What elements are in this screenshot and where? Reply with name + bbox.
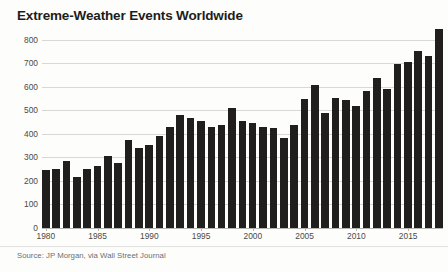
bar-1990 — [145, 145, 153, 228]
x-axis-label-2005: 2005 — [295, 231, 314, 241]
bar-1981 — [52, 169, 60, 228]
bar-series — [42, 28, 443, 228]
source-note: Source: JP Morgan, via Wall Street Journ… — [17, 251, 166, 260]
x-axis-label-1985: 1985 — [88, 231, 107, 241]
gridline-0 — [42, 228, 443, 229]
bar-2010 — [352, 106, 360, 228]
bar-1999 — [239, 121, 247, 228]
bar-1983 — [73, 177, 81, 228]
y-axis-label-400: 400 — [4, 129, 38, 139]
bar-1989 — [135, 148, 143, 228]
bar-2016 — [414, 51, 422, 228]
chart-container: Extreme-Weather Events Worldwide 0100200… — [0, 0, 448, 272]
x-axis: 19801985199019952000200520102015 — [42, 231, 443, 245]
bar-2009 — [342, 100, 350, 228]
bar-1993 — [176, 115, 184, 228]
footer-divider — [0, 246, 448, 247]
bar-1991 — [156, 136, 164, 228]
bar-1980 — [42, 170, 50, 228]
bar-1994 — [187, 118, 195, 228]
bar-1988 — [125, 140, 133, 228]
x-axis-label-1990: 1990 — [140, 231, 159, 241]
y-axis-label-100: 100 — [4, 199, 38, 209]
bar-1984 — [83, 169, 91, 228]
chart-title: Extreme-Weather Events Worldwide — [17, 8, 243, 23]
bar-1995 — [197, 121, 205, 228]
bar-2005 — [301, 99, 309, 228]
bar-2011 — [363, 91, 371, 228]
bar-2014 — [394, 64, 402, 229]
bar-1996 — [208, 127, 216, 228]
bar-1998 — [228, 108, 236, 228]
y-axis-label-200: 200 — [4, 176, 38, 186]
y-axis: 0100200300400500600700800 — [0, 28, 38, 228]
y-axis-label-600: 600 — [4, 82, 38, 92]
y-axis-label-700: 700 — [4, 58, 38, 68]
bar-1987 — [114, 163, 122, 228]
bar-2013 — [383, 89, 391, 228]
y-axis-label-0: 0 — [4, 223, 38, 233]
bar-2008 — [332, 98, 340, 228]
x-axis-label-2000: 2000 — [244, 231, 263, 241]
bar-2002 — [270, 128, 278, 228]
bar-2001 — [259, 127, 267, 228]
y-axis-label-300: 300 — [4, 152, 38, 162]
bar-1992 — [166, 127, 174, 228]
bar-1985 — [94, 166, 102, 228]
y-axis-label-800: 800 — [4, 35, 38, 45]
bar-2000 — [249, 123, 257, 228]
x-axis-label-2010: 2010 — [347, 231, 366, 241]
y-axis-label-500: 500 — [4, 105, 38, 115]
x-axis-label-2015: 2015 — [399, 231, 418, 241]
bar-2006 — [311, 85, 319, 228]
plot-area — [42, 28, 443, 228]
bar-2003 — [280, 138, 288, 228]
bar-2017 — [425, 56, 433, 228]
bar-1986 — [104, 156, 112, 228]
bar-2012 — [373, 78, 381, 228]
bar-2018 — [435, 29, 443, 228]
bar-2004 — [290, 125, 298, 228]
bar-2007 — [321, 113, 329, 228]
bar-2015 — [404, 62, 412, 228]
bar-1982 — [63, 161, 71, 228]
bar-1997 — [218, 125, 226, 228]
x-axis-label-1980: 1980 — [36, 231, 55, 241]
x-axis-label-1995: 1995 — [192, 231, 211, 241]
